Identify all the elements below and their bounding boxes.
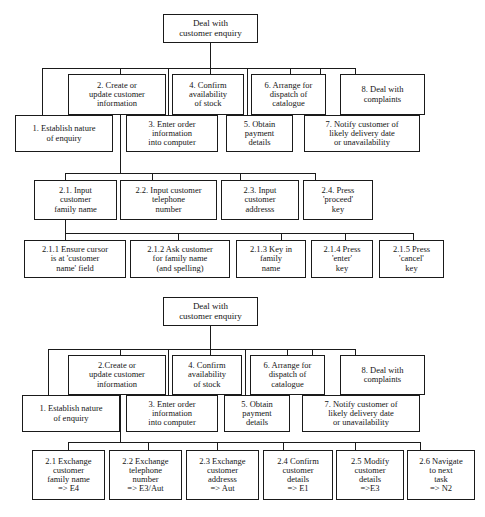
d2-node-2-6-annotation: => N2 [410,484,472,493]
d1-node-5: 5. Obtain payment details [226,115,293,152]
d1-node-3-line-3: into computer [129,138,215,147]
d1-node-2-1-3: 2.1.3 Key in family name [236,240,306,278]
d1-node-2-1-4-line-3: key [314,264,370,273]
d2-node-7: 7. Notify customer of likely delivery da… [302,395,420,432]
d1-drop-2-1-3 [281,233,282,240]
d1-node-2-1-4: 2.1.4 Press 'enter' key [311,240,373,278]
d1-node-2-3: 2.3. Input customer addresss [221,180,299,220]
d2-drop-2-3 [217,442,218,450]
d2-node-2-1-annotation: => E4 [35,484,102,493]
d1-node-2-1-5: 2.1.5 Press 'cancel' key [379,240,444,278]
d2-root-line-2: customer enquiry [166,312,255,322]
d1-drop-2-2 [152,173,153,180]
d1-node-2-4-line-3: key [306,205,370,214]
d1-root-line-2: customer enquiry [166,29,255,39]
d2-node-2-5: 2.5 Modify customer details =>E3 [336,450,404,500]
d1-drop-2-1-2 [178,233,179,240]
d1-node-2-1: 2.1. Input customer family name [34,180,117,220]
d1-node-4-line-3: of stock [175,99,241,108]
d2-node-6-line-3: catalogue [253,380,322,389]
d1-drop-2-1-5 [413,233,414,240]
d2-drop-3 [168,349,169,395]
d1-node-2-2-line-3: number [123,205,214,214]
d2-node-2-2-annotation: => E3/Aut [112,484,179,493]
d2-root-stem [210,326,211,349]
d1-node-2-1-3-line-3: name [239,264,303,273]
d2-drop-2-1 [68,442,69,450]
d1-node-2-1-1-line-3: name' field [27,264,123,273]
d1-drop-2-1-4 [345,233,346,240]
d2-node-5: 5. Obtain payment details [224,395,290,432]
d1-node-1: 1. Establish nature of enquiry [15,115,113,152]
d2-root-node: Deal with customer enquiry [163,297,258,326]
d2-node-4: 4. Confirm availability of stock [172,355,242,395]
d1-node-2-1-line-3: family name [37,205,114,214]
d1-node-6: 6. Arrange for dispatch of catalogue [251,74,326,115]
d1-node-2-4: 2.4. Press 'proceed' key [303,180,373,220]
d1-node-2-1-1: 2.1.1 Ensure cursor is at 'customer name… [24,240,126,278]
d2-node-2-4-annotation: => E1 [266,484,330,493]
d1-drop-5 [247,68,248,115]
d1-node-5-line-3: details [229,138,290,147]
d2-node-2-4: 2.4 Confirm customer details => E1 [263,450,333,500]
d1-drop-2-4 [315,173,316,180]
d2-node2-stem [120,395,121,442]
d1-node-2-1-5-line-3: key [382,264,441,273]
d2-node-1: 1. Establish nature of enquiry [22,395,120,432]
d2-drop-1 [48,349,49,395]
d1-node-2-1-2-line-3: (and spelling) [133,264,227,273]
d2-node-2-line-3: information [71,380,163,389]
d1-node-6-line-3: catalogue [254,99,323,108]
d1-drop-2-1 [65,173,66,180]
d2-node-1-line-2: of enquiry [25,414,117,423]
d2-node-2-1: 2.1 Exchange customer family name => E4 [32,450,105,500]
d1-level2-bus [65,173,315,174]
d1-drop-1 [42,68,43,115]
d2-node-7-line-3: or unavailability [305,418,417,427]
d1-drop-2-1-1 [65,233,66,240]
d2-node-8: 8. Deal with complaints [340,355,425,395]
d2-drop-2-2 [148,442,149,450]
d2-node-5-line-3: details [227,418,287,427]
d1-node-3: 3. Enter order information into computer [126,115,218,152]
d1-node-7-line-3: or unavailability [307,138,417,147]
d2-node-3: 3. Enter order information into computer [126,395,218,432]
d1-node-2-line-3: information [71,99,163,108]
d1-node-7: 7. Notify customer of likely delivery da… [304,115,420,152]
d2-node-2-2: 2.2 Exchange telephone number => E3/Aut [109,450,182,500]
d2-drop-2-4 [283,442,284,450]
d2-node-8-line-2: complaints [343,375,422,384]
d2-drop-2-5 [355,442,356,450]
d1-node-8: 8. Deal with complaints [340,74,425,115]
d1-node-1-line-2: of enquiry [18,134,110,143]
d1-node-2: 2. Create or update customer information [68,74,166,115]
d2-node-6: 6. Arrange for dispatch of catalogue [250,355,325,395]
d1-node-2-2: 2.2. Input customer telephone number [120,180,217,220]
d2-node-2-3: 2.3 Exchange customer addresss => Aut [186,450,259,500]
d1-drop-2-3 [240,173,241,180]
d1-node2-stem [120,115,121,173]
d2-node-2-5-annotation: =>E3 [339,484,401,493]
d1-node21-stem [65,220,66,233]
d1-root-node: Deal with customer enquiry [163,14,258,43]
d2-level1-bus [48,349,355,350]
d1-node-2-1-2: 2.1.2 Ask customer for family name (and … [130,240,230,278]
d2-level2-bus [68,442,420,443]
d1-drop-3 [168,68,169,115]
d1-node-2-3-line-3: addresss [224,205,296,214]
d2-drop-5 [245,349,246,395]
d1-node-4: 4. Confirm availability of stock [172,74,244,115]
d1-node-8-line-2: complaints [343,95,422,104]
d1-root-stem [210,43,211,68]
d2-node-3-line-3: into computer [129,418,215,427]
d1-level3-bus [65,233,413,234]
d2-node-2: 2.Create or update customer information [68,355,166,395]
d2-node-4-line-3: of stock [175,380,239,389]
d1-level1-bus [42,68,355,69]
d2-node-2-3-annotation: => Aut [189,484,256,493]
hta-diagram-canvas: Deal with customer enquiry 2. Create or … [0,0,485,517]
d2-node-2-6: 2.6 Navigate to next task => N2 [407,450,475,500]
d2-drop-2-6 [420,442,421,450]
